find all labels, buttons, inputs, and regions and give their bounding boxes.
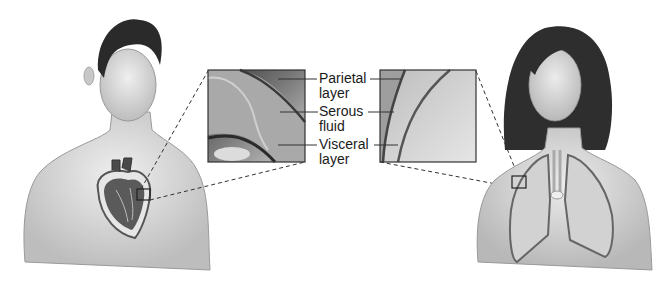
pericardium-inset — [208, 70, 305, 162]
serous-membrane-figure: Parietal layer Serous fluid Visceral lay… — [0, 0, 666, 288]
label-parietal-layer: Parietal layer — [319, 71, 366, 101]
male-figure — [24, 19, 210, 270]
label-visceral-layer: Visceral layer — [319, 137, 369, 167]
female-figure — [477, 26, 652, 270]
pleura-inset — [380, 70, 476, 162]
label-serous-fluid: Serous fluid — [319, 104, 363, 134]
